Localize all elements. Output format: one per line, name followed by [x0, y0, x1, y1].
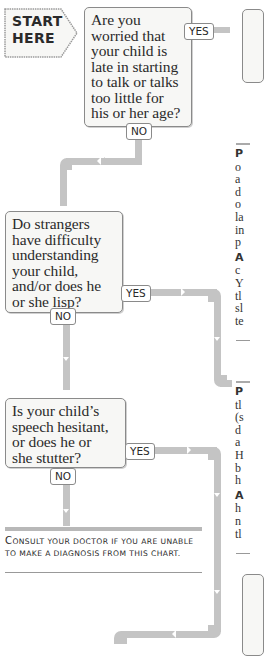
result-box-1 [242, 9, 264, 83]
connector-q2-no-down [63, 318, 70, 390]
chevron-icon [63, 509, 69, 513]
right-text-block-1: P o a d o la in p A c Y tl sl te [235, 148, 244, 327]
no-label-q2: NO [50, 308, 76, 325]
connector-q3-yes [150, 447, 217, 454]
no-label-q3: NO [50, 468, 76, 485]
yes-label-q2: YES [121, 285, 151, 302]
section-rule [236, 143, 250, 145]
connector-q3-yes-left [122, 631, 214, 638]
section-rule [236, 381, 250, 383]
section-rule [236, 553, 250, 554]
chevron-icon [214, 493, 220, 497]
consult-doctor-note: Consult your doctor if you are unable to… [5, 535, 202, 560]
question-box-1: Are you worried that your child is late … [84, 7, 192, 127]
question-box-2: Do strangers have difficulty understandi… [5, 211, 123, 313]
question-text: Do strangers have difficulty understandi… [12, 216, 116, 309]
start-here-label: START HERE [12, 13, 63, 47]
consult-rule-top [5, 527, 202, 531]
yes-label-q1: YES [184, 23, 214, 40]
connector-q3-yes-down2 [114, 638, 121, 644]
right-text-block-2: P tl (s d a H b h A h n tl [235, 386, 244, 540]
chevron-icon [187, 446, 191, 454]
chevron-icon [63, 357, 69, 361]
chevron-icon [214, 590, 220, 594]
chevron-icon [101, 157, 105, 165]
chevron-icon [214, 337, 220, 341]
result-box-2 [242, 574, 264, 656]
question-box-3: Is your child’s speech hesitant, or does… [5, 398, 126, 468]
consult-rule-bottom [5, 572, 202, 573]
yes-label-q3: YES [125, 443, 155, 460]
question-text: Are you worried that your child is late … [91, 12, 185, 121]
chevron-icon [181, 288, 185, 296]
connector-q2-yes-right [220, 380, 232, 387]
no-label-q1: NO [126, 123, 152, 140]
question-text: Is your child’s speech hesitant, or does… [12, 403, 119, 465]
section-rule [236, 340, 250, 341]
chevron-icon [172, 630, 176, 638]
connector-q1-no-down2 [60, 166, 67, 206]
connector-q3-yes-down [214, 454, 221, 632]
